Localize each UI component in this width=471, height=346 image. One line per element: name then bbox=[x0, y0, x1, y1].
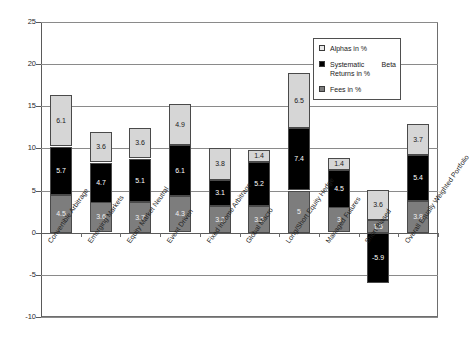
bar-segment-value: 5.7 bbox=[56, 167, 66, 175]
x-tick-mark bbox=[319, 233, 320, 237]
bar-segment-beta: 4.5 bbox=[328, 170, 350, 208]
legend-swatch-alphas-icon bbox=[319, 45, 325, 51]
bar-segment-beta: 7.4 bbox=[288, 128, 310, 190]
bar-segment-alpha: 1.4 bbox=[328, 158, 350, 170]
x-tick-mark bbox=[279, 233, 280, 237]
bar-segment-value: 4.5 bbox=[334, 185, 344, 193]
legend-item-fees: Fees in % bbox=[319, 85, 396, 94]
bar-segment-value: 3.6 bbox=[373, 201, 383, 209]
legend-label-systematic-beta: Systematic Beta Returns in % bbox=[330, 60, 396, 78]
x-tick-mark bbox=[240, 233, 241, 237]
bar-segment-alpha: 6.1 bbox=[50, 95, 72, 146]
bar-segment-alpha: 4.9 bbox=[169, 104, 191, 145]
chart-legend: Alphas in % Systematic Beta Returns in %… bbox=[313, 38, 401, 100]
x-tick-mark bbox=[359, 233, 360, 237]
bar-segment-value: 6.1 bbox=[56, 117, 66, 125]
x-tick-mark bbox=[81, 233, 82, 237]
bar-segment-alpha: 3.6 bbox=[90, 132, 112, 162]
bar-segment-beta: 5.1 bbox=[129, 159, 151, 202]
bar-segment-value: 3.1 bbox=[215, 189, 225, 197]
x-tick-mark bbox=[120, 233, 121, 237]
bar-segment-value: 5.1 bbox=[135, 177, 145, 185]
bar-segment-value: 6.1 bbox=[175, 167, 185, 175]
bar-segment-beta: 4.7 bbox=[90, 163, 112, 203]
bar-segment-beta: 5.4 bbox=[407, 155, 429, 201]
bar-segment-value: 4.9 bbox=[175, 121, 185, 129]
legend-swatch-systematic-beta-icon bbox=[319, 61, 325, 67]
bar-segment-value: 5.4 bbox=[413, 174, 423, 182]
bar-segment-beta: 6.1 bbox=[169, 145, 191, 196]
bar-segment-alpha: 3.7 bbox=[407, 124, 429, 155]
bar-segment-value: 6.5 bbox=[294, 97, 304, 105]
bar-segment-value: 5.2 bbox=[254, 180, 264, 188]
bar-segment-value: 7.4 bbox=[294, 155, 304, 163]
legend-label-alphas: Alphas in % bbox=[330, 44, 367, 53]
legend-label-fees: Fees in % bbox=[330, 85, 361, 94]
bar-segment-value: 1.4 bbox=[254, 152, 264, 160]
bar-segment-alpha: 1.4 bbox=[248, 150, 270, 162]
x-tick-mark bbox=[438, 233, 439, 237]
bar-segment-alpha: 3.8 bbox=[209, 148, 231, 180]
bar-segment-beta: 3.1 bbox=[209, 180, 231, 206]
x-tick-mark bbox=[398, 233, 399, 237]
legend-swatch-fees-icon bbox=[319, 86, 325, 92]
bar-segment-value: 5 bbox=[297, 208, 301, 216]
bar-segment-value: 3.6 bbox=[96, 143, 106, 151]
bar-segment-alpha: 3.6 bbox=[129, 128, 151, 158]
bar-segment-value: 3.8 bbox=[215, 160, 225, 168]
legend-item-systematic-beta: Systematic Beta Returns in % bbox=[319, 60, 396, 78]
bar-segment-beta: 5.7 bbox=[50, 147, 72, 195]
x-tick-mark bbox=[200, 233, 201, 237]
legend-item-alphas: Alphas in % bbox=[319, 44, 396, 53]
bar-segment-value: 3.7 bbox=[413, 136, 423, 144]
bar-segment-value: 1.4 bbox=[334, 160, 344, 168]
bar-segment-value: -5.9 bbox=[372, 254, 384, 262]
x-tick-mark bbox=[160, 233, 161, 237]
bar-segment-value: 4.7 bbox=[96, 179, 106, 187]
bar-segment-value: 3.6 bbox=[135, 139, 145, 147]
bar-segment-alpha: 6.5 bbox=[288, 73, 310, 128]
